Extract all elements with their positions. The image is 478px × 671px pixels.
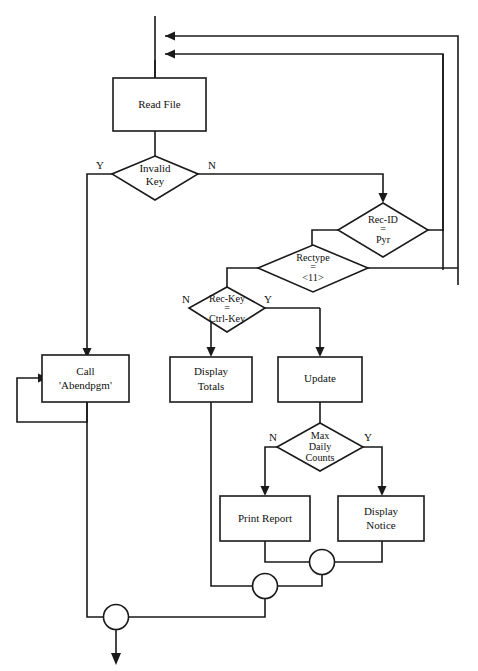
node-rec-key[interactable]: Rec-Key = Ctrl-Key	[189, 287, 265, 332]
conn-display-totals-to-merge-mid	[211, 402, 255, 586]
arrowhead-to-print-report	[261, 486, 270, 496]
conn-display-notice-to-merge-top	[335, 541, 382, 562]
call-abendpgm-label-1: Call	[76, 365, 94, 377]
display-totals-label-2: Totals	[198, 380, 225, 392]
node-rectype[interactable]: Rectype = <11>	[258, 245, 368, 292]
merge-connector-middle[interactable]	[253, 574, 278, 599]
read-file-label: Read File	[138, 98, 181, 110]
branch-label-max-daily-no: N	[269, 431, 277, 443]
conn-maxdaily-no	[265, 447, 277, 490]
max-daily-label-1: Max	[311, 430, 330, 441]
flowchart-svg: Read File Invalid Key Y N Rec-ID = Pyr R…	[0, 0, 478, 671]
rectype-label-3: <11>	[302, 272, 324, 283]
arrowhead-exit	[111, 653, 121, 665]
merge-connector-bottom[interactable]	[104, 605, 129, 630]
arrowhead-to-display-totals	[207, 347, 216, 357]
node-rec-id[interactable]: Rec-ID = Pyr	[338, 203, 428, 257]
conn-merge-top-to-merge-mid	[278, 574, 322, 586]
node-update[interactable]: Update	[278, 357, 362, 402]
node-print-report[interactable]: Print Report	[220, 496, 310, 541]
max-daily-label-3: Counts	[306, 452, 335, 463]
node-read-file[interactable]: Read File	[113, 78, 206, 131]
conn-print-report-to-merge-top	[265, 541, 310, 562]
node-display-totals[interactable]: Display Totals	[170, 357, 252, 402]
flowchart-canvas: Read File Invalid Key Y N Rec-ID = Pyr R…	[0, 0, 478, 671]
branch-label-invalid-key-yes: Y	[96, 159, 104, 171]
conn-invalidkey-no	[198, 174, 383, 197]
merge-connector-top[interactable]	[310, 550, 335, 575]
call-abendpgm-label-2: 'Abendpgm'	[59, 379, 112, 391]
display-totals-label-1: Display	[194, 365, 229, 377]
conn-recid-no	[312, 230, 338, 247]
display-notice-label-2: Notice	[366, 519, 395, 531]
conn-merge-mid-to-merge-bottom	[128, 598, 265, 617]
node-call-abendpgm[interactable]: Call 'Abendpgm'	[42, 355, 129, 402]
invalid-key-label-1: Invalid	[139, 162, 171, 174]
node-max-daily-counts[interactable]: Max Daily Counts	[277, 423, 363, 471]
print-report-label: Print Report	[238, 512, 292, 524]
update-label: Update	[304, 372, 336, 384]
rectype-label-2: =	[310, 261, 316, 272]
conn-rectype-no	[227, 268, 258, 289]
arrowhead-to-update	[316, 347, 325, 357]
branch-label-invalid-key-no: N	[208, 159, 216, 171]
max-daily-label-2: Daily	[309, 441, 333, 452]
rec-id-label-3: Pyr	[376, 234, 391, 245]
branch-label-rec-key-yes: Y	[264, 293, 272, 305]
rec-key-label-3: Ctrl-Key	[209, 313, 246, 324]
arrowhead-return-inner	[165, 50, 175, 59]
display-notice-label-1: Display	[364, 505, 399, 517]
arrowhead-to-display-notice	[378, 486, 387, 496]
branch-label-rec-key-no: N	[182, 293, 190, 305]
arrowhead-return-outer	[165, 32, 175, 41]
conn-invalidkey-yes	[87, 174, 112, 352]
branch-label-max-daily-yes: Y	[364, 431, 372, 443]
conn-call-abend-to-merge-bottom	[87, 402, 105, 617]
node-display-notice[interactable]: Display Notice	[338, 496, 424, 541]
invalid-key-label-2: Key	[146, 175, 165, 187]
arrowhead-to-recid	[379, 193, 388, 203]
conn-recid-yes	[428, 230, 443, 231]
conn-maxdaily-yes	[363, 447, 382, 490]
node-invalid-key[interactable]: Invalid Key	[112, 156, 198, 200]
rec-key-label-2: =	[224, 302, 230, 313]
rec-id-label-2: =	[380, 223, 386, 234]
